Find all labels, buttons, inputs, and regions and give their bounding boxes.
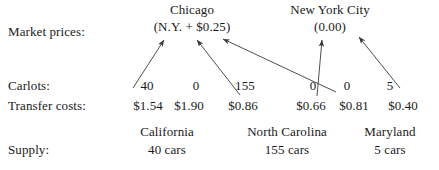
transfer-cost-california-new-york-city: $1.90 bbox=[174, 99, 204, 113]
carlots-north-carolina-chicago: 155 bbox=[235, 79, 255, 93]
transfer-cost-maryland-new-york-city: $0.40 bbox=[388, 99, 418, 113]
source-north-carolina-supply: 155 cars bbox=[265, 143, 309, 157]
destination-new-york-city-price: (0.00) bbox=[314, 20, 346, 34]
source-california-name: California bbox=[140, 125, 194, 139]
transfer-cost-north-carolina-new-york-city: $0.66 bbox=[296, 99, 326, 113]
carlots-california-new-york-city: 0 bbox=[193, 79, 200, 93]
arrow-north-carolina-to-chicago bbox=[197, 40, 240, 95]
transfer-cost-maryland-chicago: $0.81 bbox=[339, 99, 369, 113]
source-california-supply: 40 cars bbox=[148, 143, 186, 157]
source-maryland-supply: 5 cars bbox=[374, 143, 405, 157]
transfer-cost-california-chicago: $1.54 bbox=[133, 99, 163, 113]
carlots-maryland-new-york-city: 5 bbox=[387, 79, 394, 93]
row-label-carlots: Carlots: bbox=[8, 79, 50, 93]
carlots-california-chicago: 40 bbox=[140, 79, 153, 93]
destination-chicago-price: (N.Y. + $0.25) bbox=[154, 20, 231, 34]
arrow-north-carolina-to-new-york-city bbox=[317, 40, 322, 96]
source-north-carolina-name: North Carolina bbox=[247, 125, 327, 139]
transportation-network-figure: Chicago (N.Y. + $0.25) New York City (0.… bbox=[0, 0, 439, 170]
transfer-cost-north-carolina-chicago: $0.86 bbox=[228, 99, 258, 113]
carlots-maryland-chicago: 0 bbox=[344, 79, 351, 93]
source-maryland-name: Maryland bbox=[364, 125, 415, 139]
destination-new-york-city-name: New York City bbox=[290, 3, 370, 17]
carlots-north-carolina-new-york-city: 0 bbox=[310, 79, 317, 93]
row-label-transfer-costs: Transfer costs: bbox=[8, 99, 86, 113]
destination-chicago-name: Chicago bbox=[170, 3, 214, 17]
row-label-market-prices: Market prices: bbox=[8, 25, 85, 39]
arrow-maryland-to-new-york-city bbox=[359, 37, 400, 88]
row-label-supply: Supply: bbox=[8, 143, 49, 157]
